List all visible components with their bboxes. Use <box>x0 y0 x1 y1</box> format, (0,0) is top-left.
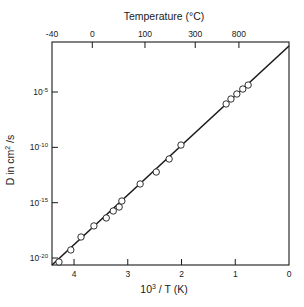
top-tick-label: 800 <box>232 29 246 39</box>
x-tick-label: 0 <box>287 269 292 279</box>
data-point-circle <box>91 223 97 229</box>
x-tick-label: 2 <box>179 269 184 279</box>
x-axis-title: 103 / T (K) <box>140 283 187 295</box>
data-point-circle <box>228 96 234 102</box>
diffusion-arrhenius-chart: 43210-40010030080010-510-1010-1510-20 Te… <box>0 0 304 307</box>
y-tick-label: 10-15 <box>30 197 49 208</box>
data-point-circle <box>166 156 172 162</box>
data-point-circle <box>137 181 143 187</box>
data-point-circle <box>234 91 240 97</box>
top-tick-label: 300 <box>188 29 202 39</box>
data-point-circle <box>110 208 116 214</box>
regression-line <box>52 46 289 265</box>
data-point-circle <box>178 142 184 148</box>
top-tick-label: 100 <box>138 29 152 39</box>
data-point-circle <box>56 259 62 265</box>
data-point-circle <box>223 101 229 107</box>
data-point-circle <box>153 169 159 175</box>
x-tick-label: 1 <box>233 269 238 279</box>
top-axis-title: Temperature (°C) <box>124 10 205 22</box>
data-point-circle <box>119 198 125 204</box>
top-tick-label: -40 <box>46 29 59 39</box>
data-point-circle <box>245 82 251 88</box>
y-axis-title: D in cm2 /s <box>4 135 16 186</box>
y-tick-label: 10-5 <box>33 87 48 98</box>
axis-ticks: 43210-40010030080010-510-1010-1510-20 <box>30 29 292 279</box>
y-tick-label: 10-20 <box>30 253 49 264</box>
data-point-circle <box>68 247 74 253</box>
fit-line <box>52 46 289 265</box>
x-tick-label: 4 <box>72 269 77 279</box>
data-point-circle <box>116 204 122 210</box>
data-points <box>56 82 252 265</box>
x-tick-label: 3 <box>125 269 130 279</box>
top-tick-label: 0 <box>90 29 95 39</box>
data-point-circle <box>78 234 84 240</box>
y-tick-label: 10-10 <box>30 142 49 153</box>
data-point-circle <box>103 215 109 221</box>
